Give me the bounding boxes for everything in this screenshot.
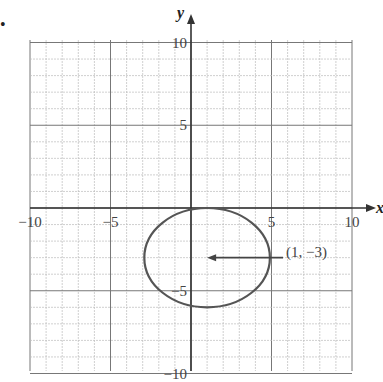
svg-text:10: 10 bbox=[172, 35, 187, 51]
axes bbox=[30, 14, 376, 371]
svg-text:5: 5 bbox=[180, 117, 188, 133]
y-axis-label: y bbox=[175, 4, 185, 22]
svg-text:5: 5 bbox=[268, 214, 276, 230]
graph: • −10−5510105−5−10 (1, −3) x y bbox=[0, 0, 383, 382]
svg-text:−10: −10 bbox=[164, 366, 187, 382]
svg-text:10: 10 bbox=[345, 214, 360, 230]
svg-text:−10: −10 bbox=[18, 214, 41, 230]
svg-text:−5: −5 bbox=[171, 283, 187, 299]
arrowhead-icon bbox=[207, 254, 216, 261]
svg-text:−5: −5 bbox=[103, 214, 119, 230]
x-axis-label: x bbox=[375, 199, 383, 216]
center-point-label: (1, −3) bbox=[286, 244, 327, 261]
bullet: • bbox=[0, 16, 6, 33]
